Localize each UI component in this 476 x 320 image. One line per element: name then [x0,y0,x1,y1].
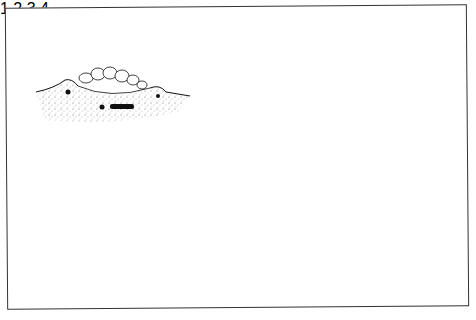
panel-1-shallow-mound [36,67,190,122]
illustration [0,0,476,320]
